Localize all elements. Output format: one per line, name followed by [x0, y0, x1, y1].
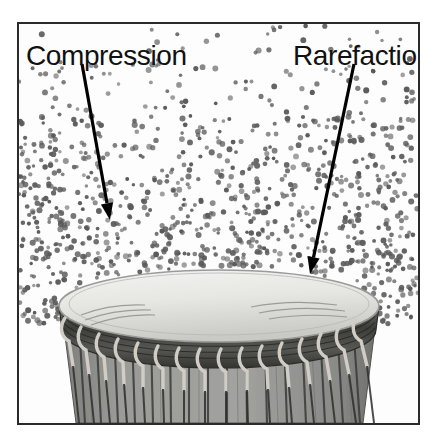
particle-dot — [372, 239, 376, 243]
particle-dot — [307, 167, 312, 172]
particle-dot — [103, 231, 109, 237]
particle-dot — [255, 240, 259, 244]
particle-dot — [49, 152, 53, 156]
particle-dot — [233, 247, 239, 253]
particle-dot — [97, 155, 101, 159]
particle-dot — [306, 246, 310, 250]
particle-dot — [406, 285, 411, 290]
rarefaction-arrow-head — [307, 256, 319, 274]
particle-dot — [72, 258, 77, 263]
particle-dot — [305, 133, 309, 137]
particle-dot — [379, 299, 383, 303]
particle-dot — [143, 104, 148, 109]
particle-dot — [290, 217, 294, 221]
particle-dot — [57, 217, 62, 222]
particle-dot — [176, 82, 182, 88]
particle-dot — [174, 262, 178, 266]
particle-dot — [210, 200, 216, 206]
particle-dot — [114, 254, 120, 260]
particle-dot — [317, 249, 321, 253]
particle-dot — [359, 230, 364, 235]
particle-dot — [61, 219, 65, 223]
particle-dot — [355, 279, 359, 283]
particle-dot — [209, 149, 215, 155]
particle-dot — [388, 268, 392, 272]
particle-dot — [316, 178, 322, 184]
particle-dot — [372, 286, 377, 291]
particle-dot — [180, 131, 184, 135]
particle-dot — [123, 227, 127, 231]
particle-dot — [186, 174, 192, 180]
particle-dot — [354, 213, 358, 217]
particle-dot — [19, 300, 22, 305]
particle-dot — [237, 238, 242, 243]
particle-dot — [251, 265, 255, 269]
particle-dot — [32, 142, 37, 147]
particle-dot — [405, 233, 410, 238]
particle-dot — [409, 98, 414, 103]
particle-dot — [253, 209, 259, 215]
particle-dot — [381, 238, 387, 244]
particle-dot — [247, 240, 252, 245]
particle-dot — [87, 235, 92, 240]
particle-dot — [57, 226, 63, 232]
particle-dot — [182, 162, 187, 167]
particle-dot — [86, 155, 91, 160]
particle-dot — [152, 240, 157, 245]
particle-dot — [310, 206, 314, 210]
particle-dot — [289, 252, 293, 256]
particle-dot — [157, 265, 162, 270]
air-molecules-layer — [19, 24, 418, 423]
particle-dot — [401, 172, 406, 177]
particle-dot — [65, 205, 70, 210]
particle-dot — [359, 111, 363, 115]
particle-dot — [244, 206, 248, 210]
particle-dot — [114, 270, 119, 275]
particle-dot — [93, 177, 98, 182]
particle-dot — [193, 66, 198, 71]
particle-dot — [270, 232, 275, 237]
particle-dot — [82, 173, 86, 177]
particle-dot — [201, 263, 206, 268]
particle-dot — [327, 206, 331, 210]
particle-dot — [21, 237, 24, 240]
particle-dot — [291, 257, 296, 262]
particle-dot — [388, 133, 394, 139]
particle-dot — [128, 215, 132, 219]
particle-dot — [105, 151, 110, 156]
particle-dot — [327, 160, 332, 165]
particle-dot — [36, 283, 40, 287]
particle-dot — [134, 253, 139, 258]
particle-dot — [386, 185, 391, 190]
particle-dot — [359, 240, 365, 246]
particle-dot — [304, 105, 309, 110]
particle-dot — [130, 146, 135, 151]
particle-dot — [165, 179, 170, 184]
particle-dot — [104, 240, 110, 246]
particle-dot — [212, 66, 218, 72]
particle-dot — [232, 262, 237, 267]
particle-dot — [55, 306, 61, 312]
particle-dot — [104, 182, 109, 187]
particle-dot — [307, 224, 311, 228]
particle-dot — [145, 267, 150, 272]
particle-dot — [75, 251, 81, 257]
particle-dot — [373, 163, 378, 168]
particle-dot — [25, 204, 30, 209]
particle-dot — [118, 204, 122, 208]
particle-dot — [390, 267, 394, 271]
particle-dot — [46, 184, 51, 189]
particle-dot — [240, 260, 245, 265]
particle-dot — [289, 234, 294, 239]
particle-dot — [286, 119, 290, 123]
particle-dot — [354, 214, 358, 218]
particle-dot — [254, 203, 259, 208]
particle-dot — [177, 251, 181, 255]
particle-dot — [377, 311, 383, 317]
particle-dot — [53, 300, 58, 305]
particle-dot — [375, 30, 379, 34]
particle-dot — [275, 160, 279, 164]
particle-dot — [43, 255, 48, 260]
particle-dot — [216, 136, 220, 140]
particle-dot — [56, 317, 61, 322]
